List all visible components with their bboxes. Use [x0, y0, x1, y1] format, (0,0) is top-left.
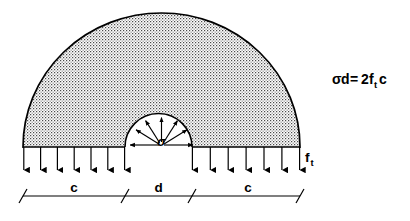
equation-equals: =: [350, 71, 358, 87]
dimension-label-left-c: c: [70, 180, 78, 195]
figure-root: σ f t: [0, 0, 410, 221]
inner-pressure-label: σ: [157, 135, 166, 149]
edge-stress-symbol: f: [305, 150, 310, 165]
equation-c: c: [379, 71, 387, 87]
equation-d: d: [341, 71, 350, 87]
dimension-label-right-c: c: [244, 180, 252, 195]
concrete-body: [0, 0, 410, 221]
stress-diagram: σ f t: [0, 0, 410, 221]
equation-coefficient: 2: [361, 71, 369, 87]
dimension-label-d: d: [154, 180, 162, 195]
